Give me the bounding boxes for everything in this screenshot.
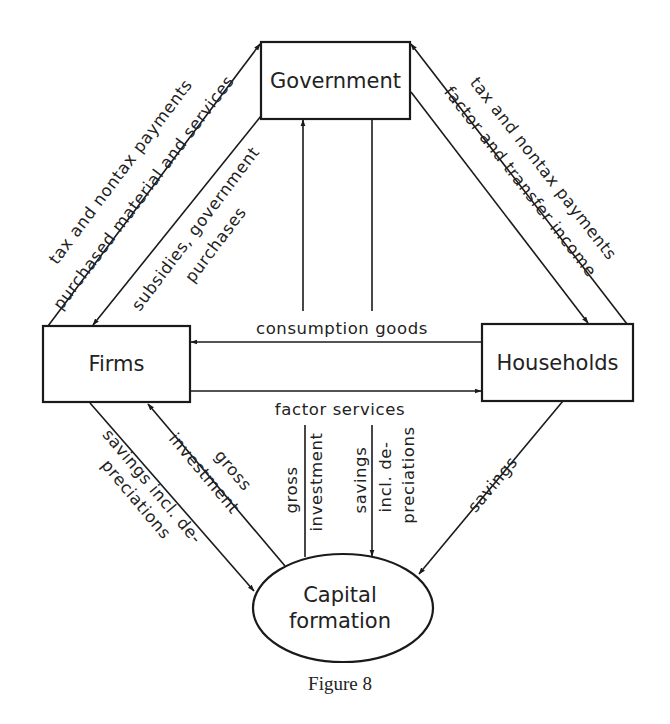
capital-formation-label-line2: formation [289, 609, 391, 633]
label-government-to-households: factor and transfer income [440, 83, 600, 281]
node-capital-formation: Capital formation [253, 554, 433, 662]
node-households: Households [482, 324, 633, 401]
label-government-to-capital-line1: savings [351, 447, 370, 514]
label-government-to-capital-line3: preciations [399, 426, 418, 524]
label-households-to-firms: consumption goods [256, 319, 428, 338]
government-label: Government [270, 69, 401, 93]
figure-caption: Figure 8 [308, 673, 372, 694]
capital-formation-label-line1: Capital [303, 583, 377, 607]
label-firms-to-households: factor services [275, 400, 405, 419]
firms-label: Firms [88, 352, 144, 376]
circular-flow-diagram: Government Firms Households Capital form… [0, 0, 670, 724]
node-government: Government [261, 42, 410, 119]
households-label: Households [496, 351, 618, 375]
label-government-to-firms-line1: subsidies, government [128, 143, 264, 314]
label-government-to-capital-line2: incl. de- [376, 441, 395, 512]
label-capital-to-government-line1: gross [282, 466, 301, 513]
label-households-to-government: tax and nontax payments [466, 74, 620, 264]
label-households-to-capital: savings [464, 453, 521, 516]
label-capital-to-government-line2: investment [307, 432, 326, 531]
node-firms: Firms [43, 326, 190, 402]
